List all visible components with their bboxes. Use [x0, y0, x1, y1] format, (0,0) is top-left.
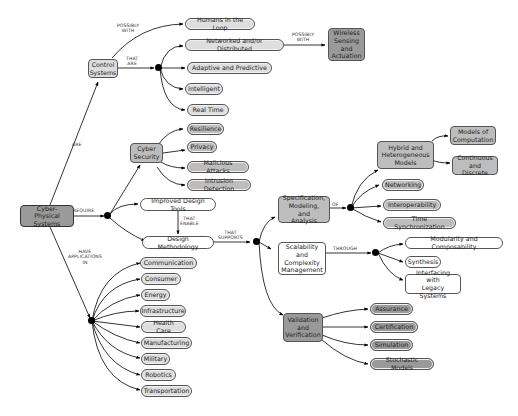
node-application[interactable]: Communication	[140, 257, 197, 269]
node-wireless-sensing-actuation[interactable]: Wireless Sensing and Actuation	[328, 28, 365, 61]
node-resilience[interactable]: Resilience	[187, 123, 224, 135]
link-label-possibly-with-2: POSSIBLY WITH	[292, 32, 314, 43]
node-certification[interactable]: Certification	[370, 321, 418, 333]
node-privacy[interactable]: Privacy	[187, 141, 217, 153]
node-real-time[interactable]: Real Time	[187, 104, 229, 116]
link-label-are: ARE	[72, 142, 82, 147]
node-time-synchronization[interactable]: Time Synchronization	[383, 217, 456, 229]
node-simulation[interactable]: Simulation	[370, 339, 413, 351]
node-models-of-computation[interactable]: Models of Computation	[450, 126, 496, 145]
node-validation-verification[interactable]: Validation and Verification	[283, 313, 323, 342]
node-cyber-physical-systems[interactable]: Cyber-Physical Systems	[20, 205, 74, 227]
junction-through	[372, 249, 379, 256]
node-application[interactable]: Consumer	[141, 273, 181, 285]
node-application[interactable]: Military	[141, 353, 170, 365]
node-intrusion-detection[interactable]: Intrusion Detection	[187, 179, 251, 191]
link-label-through: THROUGH	[333, 246, 357, 251]
node-application[interactable]: Robotics	[141, 369, 176, 381]
node-control-systems[interactable]: Control Systems	[88, 59, 118, 78]
link-label-that-are: THAT ARE	[126, 56, 138, 67]
node-specification-modeling-analysis[interactable]: Specification, Modeling, and Analysis	[278, 196, 330, 223]
node-improved-design-tools[interactable]: Improved Design Tools	[140, 198, 216, 211]
node-application[interactable]: Infrastructure	[140, 305, 186, 317]
link-label-that-enable: THAT ENABLE	[180, 216, 199, 227]
node-malicious-attacks[interactable]: Malicious Attacks	[187, 161, 249, 173]
node-networked-distributed[interactable]: Networked and/or Distributed	[185, 39, 284, 51]
link-label-possibly-with-1: POSSIBLY WITH	[117, 23, 139, 34]
node-design-methodology[interactable]: Design Methodology	[142, 236, 214, 249]
link-label-that-supports: THAT SUPPORTS	[218, 230, 243, 241]
node-application[interactable]: Energy	[141, 289, 170, 301]
link-label-have-applications-in: HAVE APPLICATIONS IN	[68, 249, 102, 265]
node-hybrid-heterogeneous-models[interactable]: Hybrid and Heterogeneous Models	[377, 141, 434, 169]
link-label-require: REQUIRE	[73, 208, 94, 213]
node-application[interactable]: Transportation	[141, 385, 192, 397]
node-interfacing-legacy-systems[interactable]: Interfacing with Legacy Systems	[405, 274, 461, 294]
node-synthesis[interactable]: Synthesis	[405, 256, 441, 268]
junction-of	[347, 204, 354, 211]
link-label-of: OF	[332, 202, 338, 207]
node-application[interactable]: Manufacturing	[141, 337, 192, 349]
node-continuous-discrete[interactable]: Continuous and Discrete	[452, 156, 498, 175]
node-humans-in-the-loop[interactable]: Humans in the Loop	[185, 18, 255, 30]
node-networking[interactable]: Networking	[382, 179, 424, 191]
node-cyber-security[interactable]: Cyber Security	[130, 143, 163, 163]
node-interoperability[interactable]: Interoperability	[383, 199, 441, 211]
node-modularity-composability[interactable]: Modularity and Composability	[405, 237, 503, 249]
concept-map: ARE REQUIRE HAVE APPLICATIONS IN POSSIBL…	[0, 0, 518, 416]
node-scalability-complexity-management[interactable]: Scalability and Complexity Management	[278, 242, 326, 275]
node-intelligent[interactable]: Intelligent	[185, 83, 223, 95]
junction-that-are	[155, 64, 162, 71]
node-assurance[interactable]: Assurance	[370, 303, 413, 315]
junction-supports	[253, 238, 260, 245]
node-adaptive-predictive[interactable]: Adaptive and Predictive	[187, 62, 272, 74]
node-stochastic-models[interactable]: Stochastic Models	[370, 358, 434, 370]
node-application[interactable]: Health Care	[141, 321, 186, 333]
junction-applications	[88, 317, 95, 324]
junction-require	[104, 212, 111, 219]
